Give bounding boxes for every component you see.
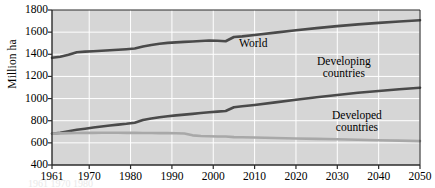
series-label-developed-line1: Developed — [332, 109, 382, 121]
x-tick-label-2040: 2040 — [367, 171, 390, 183]
x-axis-tick-labels: 1961197019801990200020102020203020402050 — [0, 0, 435, 188]
x-tick-label-2000: 2000 — [202, 171, 225, 183]
series-label-world: World — [239, 37, 267, 49]
series-label-developed-line2: countries — [332, 121, 382, 133]
series-label-developed-countries: Developed countries — [332, 109, 382, 133]
x-tick-label-1980: 1980 — [119, 171, 142, 183]
series-label-developing-line2: countries — [317, 67, 371, 79]
x-tick-label-2020: 2020 — [284, 171, 307, 183]
x-tick-label-2050: 2050 — [409, 171, 432, 183]
series-label-developing-countries: Developing countries — [317, 55, 371, 79]
chart-container: Million ha 40060080010001200140016001800… — [0, 0, 435, 188]
series-label-developing-line1: Developing — [317, 55, 371, 67]
x-tick-label-2030: 2030 — [326, 171, 349, 183]
x-tick-label-2010: 2010 — [243, 171, 266, 183]
bottom-clipped-caption: 1961 1970 1980 — [28, 179, 93, 188]
x-tick-label-1990: 1990 — [160, 171, 183, 183]
